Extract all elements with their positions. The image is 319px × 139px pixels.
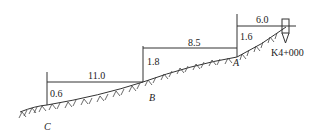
distance-6-0: 6.0 <box>256 14 269 25</box>
point-c-label: C <box>44 121 51 132</box>
distance-8-5: 8.5 <box>188 37 201 48</box>
point-a-label: A <box>232 57 240 68</box>
terrain-profile-diagram: K4+000 6.0 1.6 A 8.5 1.8 B 11.0 0.6 C <box>0 0 319 139</box>
height-a: 1.6 <box>240 31 253 42</box>
height-c: 0.6 <box>50 88 63 99</box>
station-label: K4+000 <box>271 47 304 58</box>
ground-hatching <box>19 33 277 118</box>
point-b-label: B <box>149 92 155 103</box>
distance-11-0: 11.0 <box>88 70 105 81</box>
height-b: 1.8 <box>147 56 160 67</box>
